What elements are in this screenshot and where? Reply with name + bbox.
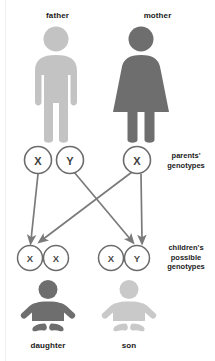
daughter-label: daughter — [0, 341, 96, 350]
genetics-inheritance-diagram: father mother — [0, 0, 215, 361]
son-figure — [100, 280, 158, 332]
baby-figure-icon — [21, 280, 76, 331]
son-label: son — [100, 341, 158, 350]
son-allele-1-label: X — [108, 253, 115, 264]
daughter-allele-2-label: X — [53, 253, 60, 264]
children-genotypes-label-line-2: possible — [160, 253, 212, 263]
son-allele-2-label: Y — [134, 253, 141, 264]
children-genotypes-label: children's possible genotypes — [160, 243, 212, 272]
children-genotypes-label-line-3: genotypes — [160, 262, 212, 272]
daughter-figure — [19, 280, 77, 332]
daughter-allele-1-label: X — [27, 253, 34, 264]
baby-figure-icon — [102, 280, 157, 331]
children-genotypes-label-line-1: children's — [160, 243, 212, 253]
